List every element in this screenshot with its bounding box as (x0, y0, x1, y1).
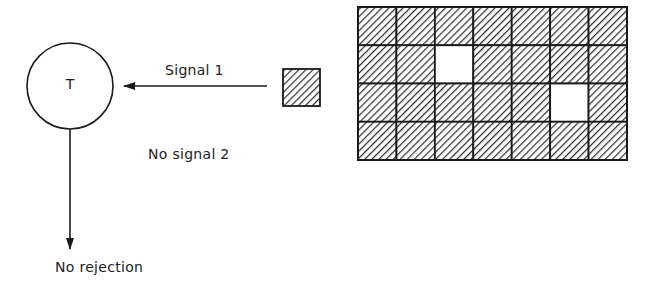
grid-cell-filled (396, 7, 434, 45)
grid-cell-filled (589, 7, 627, 45)
grid-cell-empty (550, 84, 588, 122)
grid-cell-filled (358, 45, 396, 83)
grid-cell-filled (589, 122, 627, 160)
grid-cell-filled (473, 84, 511, 122)
grid-cell-filled (396, 84, 434, 122)
grid-cell-filled (512, 7, 550, 45)
grid-cell-filled (473, 45, 511, 83)
grid-cell-filled (435, 122, 473, 160)
grid-cell-filled (358, 7, 396, 45)
grid-cell-filled (512, 84, 550, 122)
grid-cell-empty (435, 45, 473, 83)
grid-cell-filled (358, 84, 396, 122)
grid-cell-filled (358, 122, 396, 160)
no-signal-2-label: No signal 2 (148, 146, 230, 162)
grid-cell-filled (589, 45, 627, 83)
grid-cell-filled (589, 84, 627, 122)
grid-cell-filled (396, 122, 434, 160)
diagram-canvas (0, 0, 651, 284)
grid-cell-filled (550, 45, 588, 83)
signal-source-square (283, 69, 320, 106)
grid-cell-filled (512, 122, 550, 160)
grid-cell-filled (435, 84, 473, 122)
node-label: T (60, 76, 80, 92)
grid-cell-filled (473, 122, 511, 160)
grid-cell-filled (512, 45, 550, 83)
grid-cell-filled (550, 7, 588, 45)
grid-cell-filled (435, 7, 473, 45)
grid-cell-filled (396, 45, 434, 83)
signal-1-label: Signal 1 (165, 62, 224, 78)
grid-cell-filled (473, 7, 511, 45)
cell-grid (358, 7, 627, 160)
grid-cell-filled (550, 122, 588, 160)
no-rejection-label: No rejection (55, 259, 143, 275)
